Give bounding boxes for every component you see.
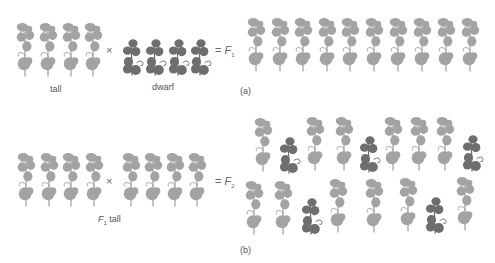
dwarf-plant-icon xyxy=(462,134,484,174)
tall-plant-icon xyxy=(411,15,433,75)
tall-plant-icon xyxy=(339,15,361,75)
tall-label: tall xyxy=(50,84,62,94)
tall-plant-icon xyxy=(387,15,409,75)
dwarf-plant-icon xyxy=(145,38,167,78)
tall-plant-icon xyxy=(83,150,105,210)
tall-plant-icon xyxy=(459,15,481,75)
tall-plant-icon xyxy=(304,114,326,174)
dwarf-plant-icon xyxy=(301,197,323,237)
tall-plant-icon xyxy=(142,150,164,210)
f1-tall-label: F1 tall xyxy=(98,214,121,226)
tall-plant-icon xyxy=(252,115,274,175)
tall-plant-icon xyxy=(316,15,338,75)
tall-plant-icon xyxy=(434,114,456,174)
f2-result-label: = F2 xyxy=(215,175,235,189)
tall-plant-icon xyxy=(82,20,104,80)
dwarf-plant-icon xyxy=(190,38,212,78)
tall-plant-icon xyxy=(269,15,291,75)
equals-symbol: = xyxy=(215,44,221,56)
tall-plant-icon xyxy=(435,15,457,75)
tall-plant-icon xyxy=(363,176,385,236)
cross-symbol: × xyxy=(106,44,112,56)
tall-plant-icon xyxy=(454,174,476,234)
dwarf-plant-icon xyxy=(168,38,190,78)
tall-plant-icon xyxy=(333,114,355,174)
tall-plant-icon xyxy=(15,150,37,210)
dwarf-plant-icon xyxy=(425,196,447,236)
tall-plant-icon xyxy=(272,178,294,238)
cross-symbol: × xyxy=(106,175,112,187)
caption-b: (b) xyxy=(240,245,251,255)
dwarf-label: dwarf xyxy=(152,82,174,92)
tall-plant-icon xyxy=(60,20,82,80)
dwarf-plant-icon xyxy=(279,136,301,176)
dwarf-plant-icon xyxy=(359,135,381,175)
f1-result-label: = F1 xyxy=(215,44,235,58)
generation-number: 2 xyxy=(231,183,234,189)
tall-plant-icon xyxy=(245,15,267,75)
tall-plant-icon xyxy=(120,150,142,210)
tall-plant-icon xyxy=(164,150,186,210)
tall-plant-icon xyxy=(243,178,265,238)
generation-number: 1 xyxy=(231,52,234,58)
tall-plant-icon xyxy=(60,150,82,210)
tall-plant-icon xyxy=(408,114,430,174)
tall-plant-icon xyxy=(38,150,60,210)
dwarf-plant-icon xyxy=(122,38,144,78)
tall-plant-icon xyxy=(37,20,59,80)
tall-plant-icon xyxy=(382,114,404,174)
caption-a: (a) xyxy=(240,86,251,96)
tall-plant-icon xyxy=(397,175,419,235)
equals-symbol: = xyxy=(215,175,221,187)
tall-plant-icon xyxy=(14,20,36,80)
tall-plant-icon xyxy=(292,15,314,75)
tall-plant-icon xyxy=(186,150,208,210)
tall-plant-icon xyxy=(363,15,385,75)
tall-plant-icon xyxy=(327,176,349,236)
